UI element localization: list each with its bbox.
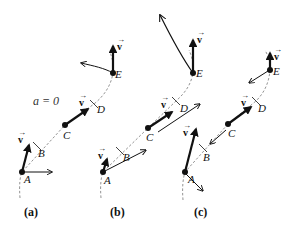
accel-arrow-e — [81, 63, 113, 73]
velocity-label: →v — [117, 42, 122, 52]
label-b: B — [123, 152, 130, 163]
label-a: A — [104, 175, 111, 186]
label-e: E — [196, 68, 203, 79]
motion-diagram — [0, 0, 297, 231]
label-e: E — [115, 69, 122, 80]
label-d: D — [258, 103, 266, 114]
label-c: C — [63, 130, 70, 141]
label-a: A — [24, 174, 31, 185]
velocity-label: →v — [18, 135, 23, 145]
accel-arrow-e — [249, 71, 268, 83]
label-c: C — [228, 128, 235, 139]
caption-a: (a) — [24, 205, 38, 220]
velocity-label: →v — [161, 100, 166, 110]
velocity-label: →v — [241, 98, 246, 108]
zero-acceleration-label: a = 0 — [33, 94, 59, 109]
label-d: D — [180, 103, 188, 114]
label-e: E — [273, 66, 280, 77]
caption-b: (b) — [110, 205, 125, 220]
label-a: A — [188, 174, 195, 185]
velocity-arrow-c — [228, 107, 251, 124]
caption-c: (c) — [194, 205, 207, 220]
label-c: C — [146, 132, 153, 143]
label-d: D — [97, 104, 105, 115]
velocity-arrow-c — [65, 109, 88, 125]
panel-a — [19, 46, 116, 198]
velocity-label: →v — [197, 35, 202, 45]
velocity-label: →v — [79, 98, 84, 108]
accel-arrow-e — [160, 15, 193, 73]
point-c — [62, 122, 68, 128]
velocity-label: →v — [98, 151, 103, 161]
velocity-label: →v — [274, 52, 279, 62]
label-b: B — [38, 148, 45, 159]
velocity-label: →v — [183, 128, 188, 138]
accel-arrow-c — [210, 130, 226, 144]
label-b: B — [203, 152, 210, 163]
